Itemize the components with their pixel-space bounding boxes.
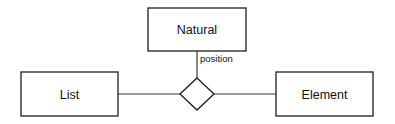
er-diagram: Natural position List Element (0, 0, 395, 124)
entity-list[interactable]: List (21, 72, 118, 116)
entity-element[interactable]: Element (276, 72, 373, 116)
relationship-diamond[interactable] (180, 78, 214, 110)
entity-element-label: Element (302, 88, 348, 102)
entity-natural-label: Natural (177, 23, 217, 37)
entity-natural[interactable]: Natural (148, 8, 246, 51)
role-label-position: position (200, 53, 233, 64)
entity-list-label: List (60, 88, 80, 102)
